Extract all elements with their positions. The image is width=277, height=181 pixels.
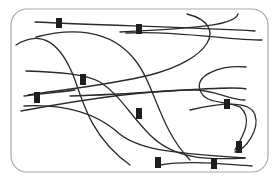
crosslink-marker <box>56 18 62 28</box>
crosslink-marker <box>80 74 86 85</box>
crosslink-marker <box>155 157 161 168</box>
crosslink-marker <box>34 92 40 103</box>
crosslink-marker <box>236 141 242 153</box>
fiber-network-diagram <box>0 0 277 181</box>
crosslink-marker <box>224 99 230 109</box>
crosslink-marker <box>136 24 142 34</box>
diagram-canvas <box>0 0 277 181</box>
crosslink-marker <box>211 158 217 169</box>
crosslink-marker <box>136 108 142 119</box>
